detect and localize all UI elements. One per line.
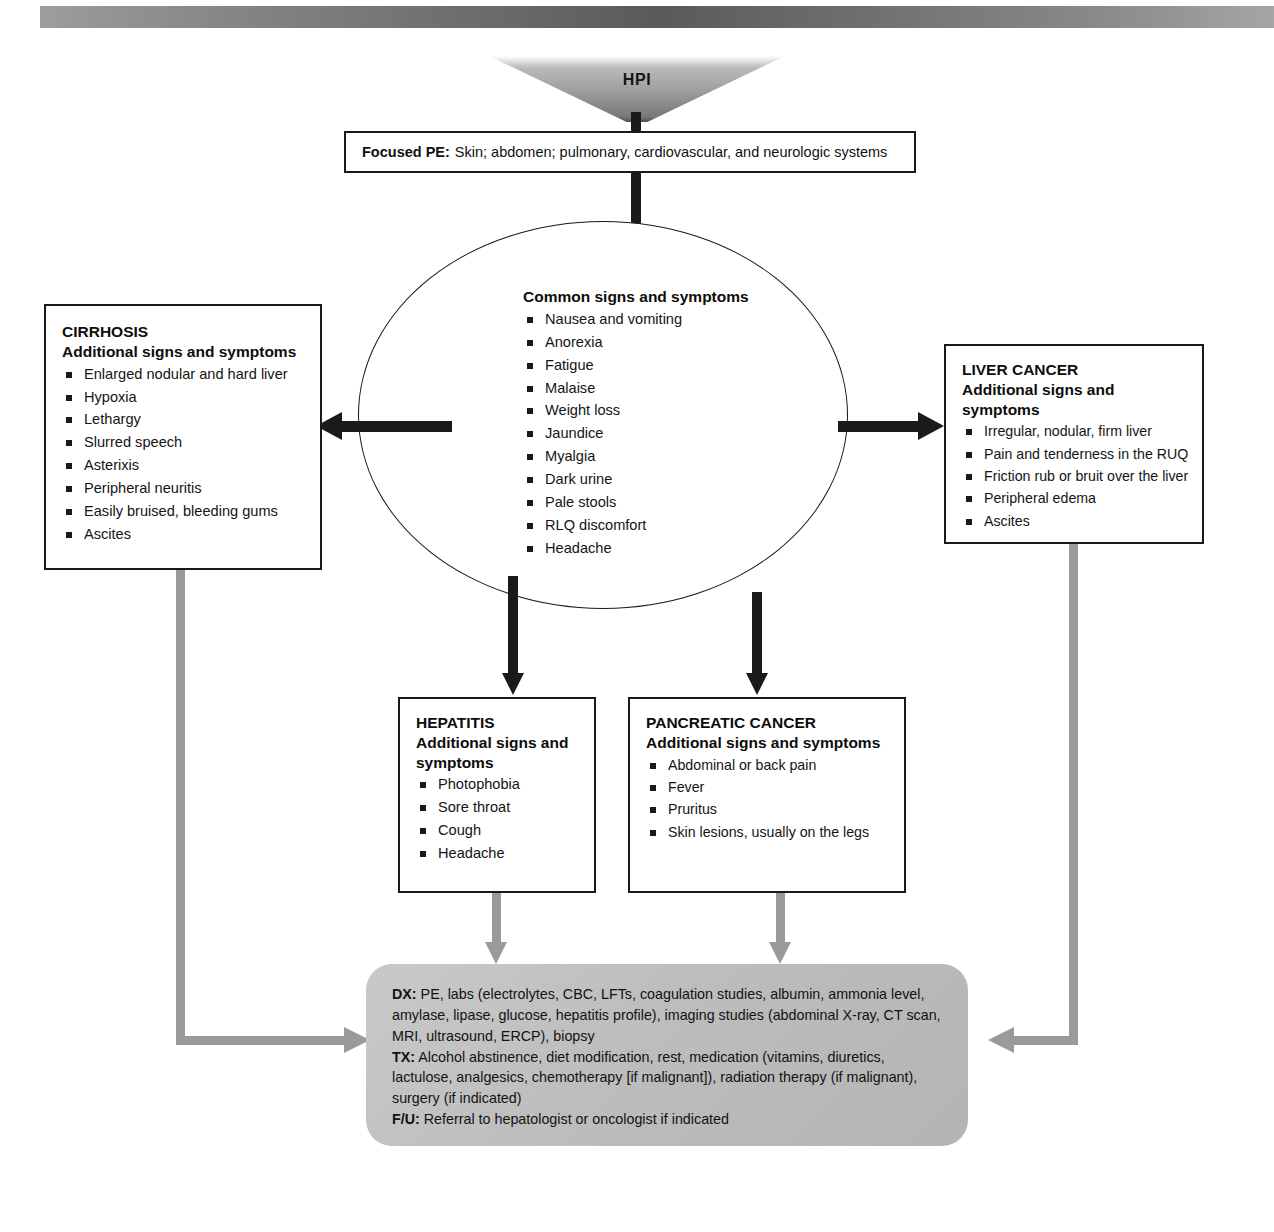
liver-cancer-subtitle: Additional signs and symptoms (962, 380, 1192, 420)
square-bullet-icon (527, 546, 533, 552)
square-bullet-icon (527, 408, 533, 414)
pancreatic-cancer-title: PANCREATIC CANCER (646, 713, 894, 733)
symptom-label: Skin lesions, usually on the legs (668, 824, 869, 840)
square-bullet-icon (420, 805, 426, 811)
square-bullet-icon (420, 782, 426, 788)
square-bullet-icon (650, 763, 656, 769)
hpi-label: HPI (489, 71, 785, 89)
pancreatic-cancer-box: PANCREATIC CANCER Additional signs and s… (628, 697, 906, 893)
symptom-label: Anorexia (545, 334, 603, 350)
square-bullet-icon (420, 828, 426, 834)
symptom-label: Pruritus (668, 801, 717, 817)
symptom-label: Nausea and vomiting (545, 311, 682, 327)
square-bullet-icon (66, 463, 72, 469)
symptom-label: Headache (438, 845, 505, 861)
hepatitis-list: PhotophobiaSore throatCoughHeadache (416, 773, 584, 865)
square-bullet-icon (650, 785, 656, 791)
symptom-list-item: Easily bruised, bleeding gums (62, 500, 306, 523)
arrow-to-liver-cancer-icon (918, 412, 944, 440)
symptom-list-item: Lethargy (62, 408, 306, 431)
liver-cancer-list: Irregular, nodular, firm liverPain and t… (962, 420, 1192, 531)
symptom-list-item: Fever (646, 776, 894, 798)
symptom-label: Lethargy (84, 411, 141, 427)
cirrhosis-list: Enlarged nodular and hard liverHypoxiaLe… (62, 363, 306, 546)
plan-fu-text: Referral to hepatologist or oncologist i… (424, 1111, 729, 1127)
symptom-list-item: Hypoxia (62, 386, 306, 409)
symptom-list-item: Slurred speech (62, 431, 306, 454)
arrow-to-hepatitis-icon (502, 673, 524, 695)
symptom-list-item: Malaise (523, 377, 823, 400)
symptom-label: Asterixis (84, 457, 139, 473)
cirrhosis-subtitle: Additional signs and symptoms (62, 342, 306, 362)
hepatitis-title: HEPATITIS (416, 713, 584, 733)
square-bullet-icon (650, 830, 656, 836)
square-bullet-icon (966, 519, 972, 525)
symptom-label: Fever (668, 779, 704, 795)
symptom-label: Cough (438, 822, 481, 838)
square-bullet-icon (66, 417, 72, 423)
symptom-list-item: Headache (523, 537, 823, 560)
common-symptoms-list: Nausea and vomitingAnorexiaFatigueMalais… (523, 308, 823, 560)
symptom-list-item: Ascites (962, 510, 1192, 532)
square-bullet-icon (66, 395, 72, 401)
square-bullet-icon (527, 500, 533, 506)
connector-circle-to-hepatitis (508, 576, 518, 675)
plan-dx-lead: DX: (392, 986, 417, 1002)
focused-pe-lead: Focused PE: (362, 144, 450, 160)
header-gradient-bar (40, 6, 1274, 28)
square-bullet-icon (966, 429, 972, 435)
arrow-to-pancreatic-cancer-icon (746, 673, 768, 695)
square-bullet-icon (527, 340, 533, 346)
common-symptoms-content: Common signs and symptoms Nausea and vom… (523, 287, 823, 560)
square-bullet-icon (66, 372, 72, 378)
symptom-label: Dark urine (545, 471, 612, 487)
connector-hepatitis-to-plan (492, 893, 501, 945)
arrow-liver-cancer-to-plan-icon (988, 1027, 1014, 1053)
symptom-list-item: Weight loss (523, 399, 823, 422)
connector-circle-to-cirrhosis (340, 421, 452, 432)
symptom-list-item: Dark urine (523, 468, 823, 491)
connector-liver-cancer-to-plan (1014, 1036, 1078, 1045)
arrow-pancreatic-cancer-to-plan-icon (769, 942, 791, 964)
diagram-canvas: HPI Focused PE: Skin; abdomen; pulmonary… (0, 0, 1274, 1232)
connector-liver-cancer-down (1069, 544, 1078, 1045)
symptom-label: Hypoxia (84, 389, 137, 405)
symptom-list-item: Peripheral neuritis (62, 477, 306, 500)
symptom-label: Myalgia (545, 448, 595, 464)
symptom-list-item: Abdominal or back pain (646, 754, 894, 776)
symptom-list-item: Fatigue (523, 354, 823, 377)
square-bullet-icon (527, 454, 533, 460)
square-bullet-icon (527, 317, 533, 323)
focused-pe-text: Skin; abdomen; pulmonary, cardiovascular… (455, 144, 888, 160)
symptom-label: Friction rub or bruit over the liver (984, 468, 1188, 484)
symptom-label: Malaise (545, 380, 595, 396)
connector-cirrhosis-to-plan (176, 1036, 346, 1045)
symptom-list-item: Photophobia (416, 773, 584, 796)
square-bullet-icon (527, 431, 533, 437)
symptom-label: Enlarged nodular and hard liver (84, 366, 288, 382)
symptom-label: Peripheral edema (984, 490, 1096, 506)
plan-fu-line: F/U: Referral to hepatologist or oncolog… (392, 1109, 942, 1130)
symptom-label: Photophobia (438, 776, 520, 792)
plan-tx-lead: TX: (392, 1049, 415, 1065)
connector-hpi-to-focused-pe (631, 112, 641, 133)
square-bullet-icon (966, 452, 972, 458)
common-symptoms-title: Common signs and symptoms (523, 287, 823, 307)
cirrhosis-title: CIRRHOSIS (62, 322, 306, 342)
square-bullet-icon (527, 477, 533, 483)
symptom-label: Abdominal or back pain (668, 757, 816, 773)
hepatitis-subtitle: Additional signs and symptoms (416, 733, 584, 773)
symptom-list-item: Pain and tenderness in the RUQ (962, 443, 1192, 465)
liver-cancer-title: LIVER CANCER (962, 360, 1192, 380)
symptom-label: Peripheral neuritis (84, 480, 202, 496)
arrow-hepatitis-to-plan-icon (485, 942, 507, 964)
symptom-list-item: Pruritus (646, 798, 894, 820)
symptom-list-item: Asterixis (62, 454, 306, 477)
symptom-label: Weight loss (545, 402, 620, 418)
symptom-label: Sore throat (438, 799, 510, 815)
plan-dx-line: DX: PE, labs (electrolytes, CBC, LFTs, c… (392, 984, 942, 1047)
symptom-label: Pain and tenderness in the RUQ (984, 446, 1188, 462)
symptom-list-item: Sore throat (416, 796, 584, 819)
square-bullet-icon (66, 509, 72, 515)
connector-pancreatic-cancer-to-plan (776, 893, 785, 945)
